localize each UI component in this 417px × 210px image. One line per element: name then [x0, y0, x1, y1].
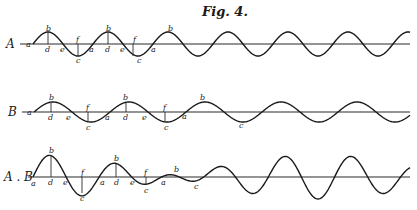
row-b: B abdefcabdefcabc: [7, 93, 410, 132]
point-label: c: [144, 186, 149, 195]
figure-4-wave-diagram: Fig. 4. A abdefcabdefcab B abdefcabdefca…: [0, 0, 417, 210]
point-label: a: [182, 112, 187, 121]
point-label: e: [63, 178, 68, 187]
point-label: e: [142, 113, 147, 122]
point-label: c: [164, 123, 169, 132]
point-label: a: [105, 113, 110, 122]
point-label: f: [80, 168, 86, 177]
point-label: a: [89, 45, 94, 54]
point-label: b: [168, 24, 173, 33]
point-label: f: [132, 35, 138, 44]
point-label: a: [161, 178, 166, 187]
point-label: f: [143, 168, 149, 177]
point-label: f: [162, 103, 168, 112]
point-label: f: [75, 35, 81, 44]
point-label: b: [123, 93, 128, 102]
point-label: c: [194, 182, 199, 191]
point-label: c: [80, 194, 85, 203]
row-a-plus-b: A . B abdefcabdefcabc: [3, 146, 410, 203]
point-label: e: [66, 113, 71, 122]
point-label: b: [106, 24, 111, 33]
point-label: c: [86, 123, 91, 132]
point-label: c: [137, 56, 142, 65]
point-label: e: [130, 178, 135, 187]
point-label: e: [60, 45, 65, 54]
point-label: b: [49, 93, 54, 102]
point-label: f: [85, 103, 91, 112]
point-label: d: [123, 113, 128, 122]
point-label: d: [45, 45, 50, 54]
point-label: b: [114, 154, 119, 163]
point-label: b: [174, 165, 179, 174]
figure-title: Fig. 4.: [201, 4, 248, 19]
point-label: a: [27, 108, 32, 117]
point-label: a: [31, 179, 36, 188]
point-label: b: [200, 93, 205, 102]
point-label: c: [76, 56, 81, 65]
point-label: a: [100, 178, 105, 187]
point-label: e: [120, 45, 125, 54]
point-label: a: [26, 40, 31, 49]
point-label: d: [114, 178, 119, 187]
row-a-label: A: [5, 37, 15, 51]
row-b-label: B: [7, 105, 17, 119]
point-label: c: [239, 121, 244, 130]
point-label: d: [48, 178, 53, 187]
point-label: b: [49, 146, 54, 155]
point-label: d: [48, 113, 53, 122]
point-label: a: [151, 45, 156, 54]
point-label: d: [105, 45, 110, 54]
row-a: A abdefcabdefcab: [5, 24, 410, 65]
point-label: b: [46, 24, 51, 33]
